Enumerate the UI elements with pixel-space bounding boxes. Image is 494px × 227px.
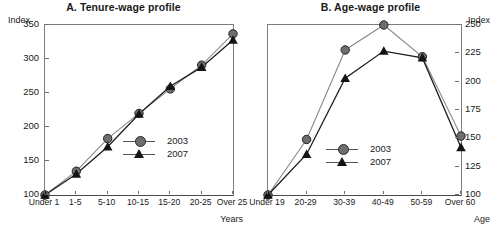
- y-axis-tick-mark: [455, 52, 459, 53]
- y-axis-tick-label: 200: [0, 120, 39, 131]
- y-axis-tick-mark: [45, 160, 49, 161]
- x-axis-tick-mark: [201, 191, 202, 194]
- x-axis-tick-mark: [138, 191, 139, 194]
- data-point-triangle: [340, 73, 350, 82]
- y-axis-tick-mark: [45, 194, 49, 195]
- x-axis-tick-label: Under 1: [29, 197, 60, 207]
- x-axis-tick-mark: [306, 191, 307, 194]
- data-point-circle: [341, 46, 349, 54]
- y-axis-tick-label: 250: [0, 86, 39, 97]
- x-axis-tick-mark: [421, 191, 422, 194]
- panel-b-plot-area: 2003 2007: [267, 24, 462, 196]
- y-axis-tick-mark: [455, 24, 459, 25]
- panel-a-series-layer: [45, 25, 235, 197]
- panel-b-x-axis-label: Age: [474, 214, 490, 224]
- x-axis-tick-label: Under 19: [249, 197, 284, 207]
- x-axis-tick-label: 40-49: [372, 197, 394, 207]
- x-axis-tick-label: Over 60: [445, 197, 476, 207]
- circle-marker-icon: [338, 144, 349, 155]
- panel-a-x-axis-label: Years: [220, 214, 243, 224]
- x-axis-tick-mark: [169, 191, 170, 194]
- chart-panel-a: A. Tenure-wage profile Index Years 2003 …: [0, 0, 247, 227]
- x-axis-tick-label: 1-5: [69, 197, 81, 207]
- data-point-circle: [302, 135, 310, 143]
- data-point-circle: [457, 132, 465, 140]
- triangle-marker-icon: [134, 149, 144, 158]
- legend-label-2003: 2003: [370, 143, 391, 154]
- x-axis-tick-mark: [460, 191, 461, 194]
- y-axis-tick-mark: [45, 126, 49, 127]
- chart-panel-b: B. Age-wage profile Index Age 2003 2007 …: [247, 0, 494, 227]
- x-axis-tick-label: 20-25: [190, 197, 212, 207]
- y-axis-tick-label: 225: [465, 46, 481, 57]
- y-axis-tick-mark: [45, 58, 49, 59]
- triangle-marker-icon: [337, 157, 347, 166]
- legend-label-2003: 2003: [167, 135, 188, 146]
- y-axis-tick-mark: [455, 166, 459, 167]
- x-axis-tick-label: 50-59: [410, 197, 432, 207]
- x-axis-tick-mark: [232, 191, 233, 194]
- data-point-triangle: [456, 143, 466, 152]
- data-point-triangle: [379, 46, 389, 55]
- panel-b-series-layer: [268, 25, 463, 197]
- x-axis-tick-mark: [75, 191, 76, 194]
- panel-a-plot-area: 2003 2007: [44, 24, 234, 196]
- y-axis-tick-label: 300: [0, 52, 39, 63]
- series-line-2007: [268, 51, 461, 195]
- x-axis-tick-label: 30-39: [333, 197, 355, 207]
- y-axis-tick-mark: [45, 92, 49, 93]
- data-point-circle: [380, 21, 388, 29]
- data-point-circle: [103, 134, 111, 142]
- panel-a-title: A. Tenure-wage profile: [0, 1, 247, 13]
- x-axis-tick-label: Over 25: [217, 197, 248, 207]
- legend-label-2007: 2007: [370, 156, 391, 167]
- y-axis-tick-label: 125: [465, 160, 481, 171]
- x-axis-tick-label: 5-10: [98, 197, 115, 207]
- x-axis-tick-mark: [383, 191, 384, 194]
- y-axis-tick-label: 200: [465, 75, 481, 86]
- y-axis-tick-label: 250: [465, 18, 481, 29]
- y-axis-tick-mark: [45, 24, 49, 25]
- circle-marker-icon: [135, 136, 146, 147]
- data-point-triangle: [302, 149, 312, 158]
- y-axis-tick-mark: [455, 81, 459, 82]
- x-axis-tick-label: 10-15: [127, 197, 149, 207]
- y-axis-tick-label: 350: [0, 18, 39, 29]
- series-line-2003: [268, 25, 461, 195]
- x-axis-tick-mark: [107, 191, 108, 194]
- y-axis-tick-label: 175: [465, 103, 481, 114]
- two-panel-line-chart-figure: A. Tenure-wage profile Index Years 2003 …: [0, 0, 494, 227]
- panel-b-title: B. Age-wage profile: [247, 1, 494, 13]
- y-axis-tick-label: 150: [0, 154, 39, 165]
- x-axis-tick-label: 15-20: [158, 197, 180, 207]
- x-axis-tick-mark: [44, 191, 45, 194]
- x-axis-tick-mark: [344, 191, 345, 194]
- legend-label-2007: 2007: [167, 148, 188, 159]
- y-axis-tick-label: 150: [465, 131, 481, 142]
- y-axis-tick-mark: [455, 109, 459, 110]
- x-axis-tick-mark: [267, 191, 268, 194]
- y-axis-tick-mark: [455, 194, 459, 195]
- x-axis-tick-label: 20-29: [295, 197, 317, 207]
- y-axis-tick-mark: [455, 137, 459, 138]
